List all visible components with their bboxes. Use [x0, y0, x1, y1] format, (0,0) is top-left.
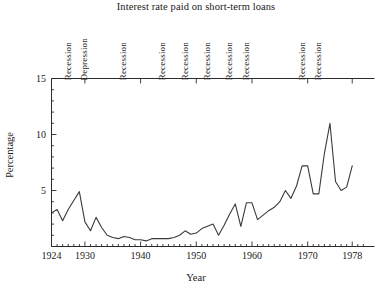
y-tick-label: 10	[26, 130, 46, 140]
x-tick-label: 1930	[72, 251, 98, 261]
x-tick-label: 1940	[128, 251, 154, 261]
x-tick-label: 1924	[39, 251, 65, 261]
x-tick-label: 1950	[183, 251, 209, 261]
y-tick-label: 5	[26, 186, 46, 196]
x-tick-label: 1978	[339, 251, 365, 261]
y-tick-label: 15	[26, 74, 46, 84]
x-tick-label: 1960	[239, 251, 265, 261]
chart-figure: Interest rate paid on short-term loans R…	[0, 0, 392, 293]
x-tick-label: 1970	[295, 251, 321, 261]
data-series-line	[52, 123, 353, 241]
axes-group	[52, 79, 375, 247]
